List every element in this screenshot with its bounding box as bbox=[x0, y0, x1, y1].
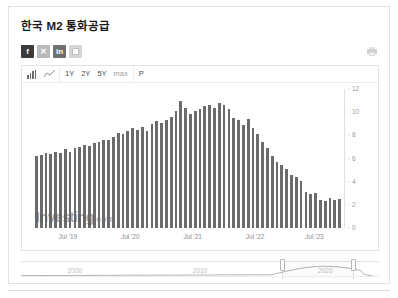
bar bbox=[88, 146, 91, 228]
bar bbox=[309, 194, 312, 228]
bar bbox=[69, 152, 72, 228]
chart-plot-inner bbox=[32, 89, 344, 228]
y-tick-mark bbox=[348, 158, 350, 159]
y-tick-mark bbox=[348, 228, 350, 229]
chart-card: 한국 M2 통화공급 f ✕ in bbox=[8, 6, 390, 284]
bar bbox=[203, 106, 206, 228]
range-5y-button[interactable]: 5Y bbox=[97, 70, 106, 78]
bar bbox=[242, 125, 245, 228]
bar-chart-icon[interactable] bbox=[27, 70, 37, 79]
bar bbox=[54, 152, 57, 228]
bar bbox=[64, 149, 67, 228]
bar bbox=[290, 175, 293, 228]
share-facebook-icon[interactable]: f bbox=[21, 45, 34, 58]
bar bbox=[295, 177, 298, 228]
y-tick-label: 10 bbox=[352, 109, 359, 116]
bar bbox=[329, 198, 332, 228]
navigator-bottom-line bbox=[21, 276, 379, 277]
bar bbox=[126, 131, 129, 228]
navigator-handle-right[interactable] bbox=[351, 259, 356, 271]
bar bbox=[35, 156, 38, 228]
bar bbox=[232, 118, 235, 228]
bar bbox=[170, 117, 173, 228]
navigator-tick-label: 2000 bbox=[67, 268, 81, 275]
y-tick-mark bbox=[348, 204, 350, 205]
bar-slot bbox=[337, 89, 342, 228]
bar bbox=[136, 130, 139, 228]
share-more-icon[interactable] bbox=[69, 45, 82, 58]
period-button[interactable]: P bbox=[139, 70, 144, 78]
bar bbox=[184, 108, 187, 228]
navigator-tick-label: 2010 bbox=[193, 268, 207, 275]
bar bbox=[252, 128, 255, 228]
share-more-glyph bbox=[72, 48, 79, 55]
bar bbox=[324, 201, 327, 228]
range-2y-button[interactable]: 2Y bbox=[81, 70, 90, 78]
bar bbox=[74, 148, 77, 228]
bar bbox=[247, 119, 250, 228]
bar bbox=[271, 156, 274, 228]
y-tick-label: 0 bbox=[352, 225, 356, 232]
chart-widget: 1Y 2Y 5Y max P 024681012 Jul '19Jul '20J… bbox=[21, 65, 379, 251]
bar bbox=[49, 154, 52, 228]
x-tick-label: Jul '19 bbox=[59, 234, 78, 241]
bar bbox=[102, 140, 105, 228]
bar bbox=[146, 131, 149, 228]
y-tick-label: 4 bbox=[352, 178, 356, 185]
bar bbox=[107, 140, 110, 228]
bar bbox=[261, 142, 264, 228]
share-x-icon[interactable]: ✕ bbox=[37, 45, 50, 58]
y-tick-label: 2 bbox=[352, 202, 356, 209]
y-tick-mark bbox=[348, 112, 350, 113]
bar bbox=[93, 143, 96, 228]
bar bbox=[189, 114, 192, 228]
line-chart-icon[interactable] bbox=[44, 70, 54, 79]
bar bbox=[276, 162, 279, 228]
page-bottom-rule bbox=[8, 290, 390, 291]
bar bbox=[160, 123, 163, 228]
x-tick-label: Jul '22 bbox=[246, 234, 265, 241]
range-1y-button[interactable]: 1Y bbox=[65, 70, 74, 78]
bar bbox=[218, 103, 221, 228]
bar bbox=[223, 105, 226, 228]
bar bbox=[208, 105, 211, 228]
x-tick-label: Jul '21 bbox=[183, 234, 202, 241]
bar bbox=[151, 124, 154, 228]
bar bbox=[83, 145, 86, 228]
range-group: 1Y 2Y 5Y max bbox=[60, 66, 134, 82]
print-icon[interactable] bbox=[367, 47, 377, 56]
range-navigator[interactable]: 200020102020 bbox=[21, 257, 379, 283]
bar bbox=[305, 192, 308, 228]
bar bbox=[199, 109, 202, 228]
bar-series bbox=[34, 89, 342, 228]
bar bbox=[122, 134, 125, 228]
bar bbox=[112, 137, 115, 229]
bar bbox=[165, 120, 168, 228]
bar bbox=[155, 121, 158, 228]
y-tick-label: 8 bbox=[352, 132, 356, 139]
x-axis-labels: Jul '19Jul '20Jul '21Jul '22Jul '23 bbox=[32, 234, 344, 244]
bar bbox=[45, 153, 48, 228]
bar bbox=[40, 155, 43, 228]
bar bbox=[131, 128, 134, 228]
x-tick-label: Jul '20 bbox=[121, 234, 140, 241]
bar bbox=[228, 109, 231, 228]
range-max-button[interactable]: max bbox=[114, 70, 128, 78]
bar bbox=[338, 199, 341, 228]
bar bbox=[256, 134, 259, 228]
navigator-handle-left[interactable] bbox=[280, 259, 285, 271]
chart-type-group bbox=[22, 66, 60, 82]
bar bbox=[319, 200, 322, 228]
bar bbox=[175, 111, 178, 228]
page-title: 한국 M2 통화공급 bbox=[21, 17, 110, 33]
y-tick-label: 12 bbox=[352, 86, 359, 93]
x-tick-label: Jul '23 bbox=[305, 234, 324, 241]
y-axis-line bbox=[344, 89, 345, 228]
bar bbox=[78, 147, 81, 228]
bar bbox=[117, 133, 120, 228]
share-linkedin-icon[interactable]: in bbox=[53, 45, 66, 58]
y-tick-label: 6 bbox=[352, 155, 356, 162]
y-tick-mark bbox=[348, 135, 350, 136]
bar bbox=[237, 120, 240, 228]
bar bbox=[194, 111, 197, 228]
